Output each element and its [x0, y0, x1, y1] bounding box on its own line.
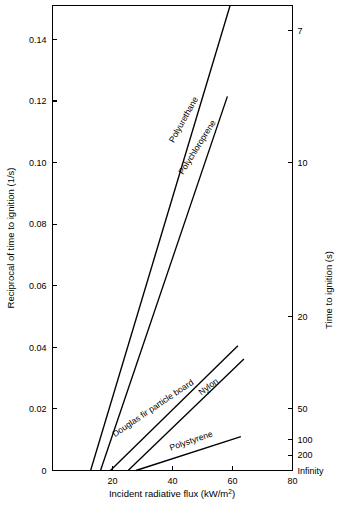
right-axis-ticks: 7102050100200Infinity: [288, 26, 324, 476]
right-tick-label: 7: [298, 26, 303, 36]
y-tick-label: 0.04: [29, 343, 47, 353]
plot-frame: [53, 6, 293, 471]
ignition-flux-chart: 20406080 00.020.040.060.080.100.120.14 7…: [0, 0, 340, 511]
series-label: Polyurethane: [167, 95, 200, 144]
series-label: Polystyrene: [168, 428, 214, 452]
x-tick-label: 20: [107, 476, 117, 486]
x-axis-title-tail: ): [232, 488, 235, 499]
y-tick-label: 0.14: [29, 35, 47, 45]
y-tick-label: 0.12: [29, 96, 47, 106]
y-tick-label: 0.08: [29, 219, 47, 229]
x-axis-title: Incident radiative flux (kW/m2): [109, 488, 235, 499]
right-axis-title: Time to ignition (s): [323, 251, 334, 329]
y-tick-label: 0: [41, 466, 46, 476]
series-line: [101, 96, 228, 470]
x-axis-ticks: 20406080: [107, 466, 297, 486]
axes-rectangle: [53, 6, 293, 471]
x-axis-title-main: Incident radiative flux (kW/m: [109, 488, 228, 499]
chart-canvas: 20406080 00.020.040.060.080.100.120.14 7…: [0, 0, 340, 511]
right-tick-label: 20: [298, 312, 308, 322]
right-tick-label: Infinity: [298, 466, 325, 476]
series-line: [110, 346, 237, 471]
y-axis-title: Reciprocal of time to ignition (1/s): [5, 168, 16, 309]
y-tick-label: 0.02: [29, 404, 47, 414]
series-labels: PolyurethanePolychloropreneDouglas fir p…: [110, 95, 220, 453]
right-tick-label: 10: [298, 158, 308, 168]
right-tick-label: 200: [298, 450, 313, 460]
right-tick-label: 100: [298, 435, 313, 445]
x-tick-label: 80: [287, 476, 297, 486]
y-tick-label: 0.06: [29, 281, 47, 291]
y-tick-label: 0.10: [29, 158, 47, 168]
right-tick-label: 50: [298, 404, 308, 414]
x-tick-label: 60: [227, 476, 237, 486]
x-tick-label: 40: [167, 476, 177, 486]
